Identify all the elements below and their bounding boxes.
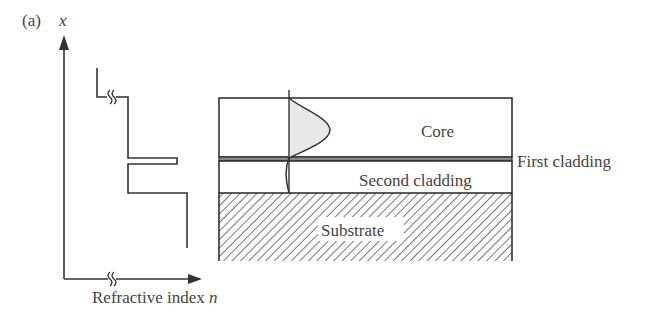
y-axis-arrow-icon xyxy=(59,35,69,50)
core-layer xyxy=(219,98,512,157)
core-label: Core xyxy=(421,122,454,141)
profile-break-icon xyxy=(107,90,116,104)
x-axis-label: Refractive index n xyxy=(92,288,218,307)
y-axis-label: x xyxy=(58,11,67,30)
panel-label: (a) xyxy=(22,11,41,30)
second-cladding-label: Second cladding xyxy=(359,171,472,190)
first-cladding-label: First cladding xyxy=(517,152,611,171)
x-axis-arrow-icon xyxy=(188,274,202,284)
substrate-label: Substrate xyxy=(321,221,384,240)
axis-break-icon xyxy=(108,272,116,286)
waveguide-diagram: (a) x Refractive index n xyxy=(0,0,660,336)
